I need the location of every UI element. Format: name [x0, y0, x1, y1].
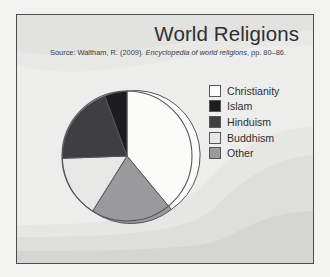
- legend-item-buddhism[interactable]: Buddhism: [209, 130, 279, 146]
- legend-swatch-icon: [209, 147, 221, 159]
- legend-swatch-icon: [209, 116, 221, 128]
- legend-swatch-icon: [209, 85, 221, 97]
- legend-swatch-icon: [209, 132, 221, 144]
- legend-swatch-icon: [209, 100, 221, 112]
- legend-item-hinduism[interactable]: Hinduism: [209, 114, 279, 130]
- chart-legend: Christianity Islam Hinduism Buddhism Oth…: [209, 83, 279, 161]
- slide-canvas: World Religions Source: Waltham, R. (200…: [0, 0, 330, 277]
- legend-label: Other: [227, 147, 254, 159]
- slide-frame: World Religions Source: Waltham, R. (200…: [16, 14, 314, 264]
- legend-label: Buddhism: [227, 132, 274, 144]
- pie-slices: [62, 90, 200, 223]
- legend-item-islam[interactable]: Islam: [209, 99, 279, 115]
- legend-label: Christianity: [227, 85, 279, 97]
- legend-item-other[interactable]: Other: [209, 145, 279, 161]
- legend-label: Islam: [227, 100, 252, 112]
- legend-label: Hinduism: [227, 116, 271, 128]
- legend-item-christianity[interactable]: Christianity: [209, 83, 279, 99]
